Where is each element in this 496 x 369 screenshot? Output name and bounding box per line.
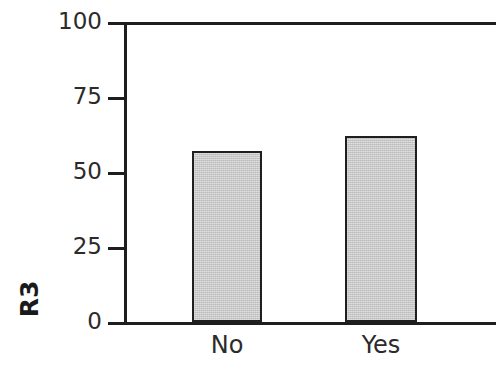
y-tick-mark-25 (108, 247, 125, 250)
x-axis-baseline (124, 322, 496, 325)
bar-no (192, 151, 262, 322)
y-axis-tick-labels: 100 75 50 25 0 (0, 0, 102, 369)
bar-chart-figure: R3 100 75 50 25 0 No Yes (0, 0, 496, 369)
y-tick-mark-75 (108, 97, 125, 100)
y-tick-label-100: 100 (58, 10, 102, 33)
bar-fill-texture (347, 138, 415, 320)
y-tick-mark-100 (108, 22, 125, 25)
y-tick-mark-50 (108, 172, 125, 175)
x-category-label-yes: Yes (331, 333, 431, 357)
y-tick-label-75: 75 (73, 85, 102, 108)
bar-yes (345, 136, 417, 322)
plot-area (124, 22, 496, 322)
y-tick-label-25: 25 (73, 235, 102, 258)
y-tick-label-0: 0 (87, 310, 102, 333)
x-category-label-no: No (177, 333, 277, 357)
y-tick-label-50: 50 (73, 160, 102, 183)
y-tick-mark-0 (108, 322, 125, 325)
bar-fill-texture (194, 153, 260, 320)
